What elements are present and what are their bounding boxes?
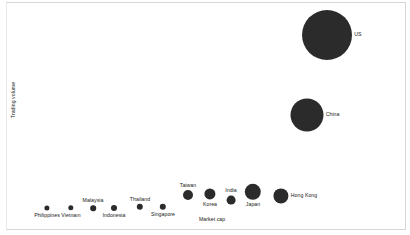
bubble-label-china: China xyxy=(326,112,340,117)
bubble-india[interactable] xyxy=(227,196,236,205)
bubble-us[interactable] xyxy=(302,10,352,60)
plot-area: PhilippinesVietnamMalaysiaIndonesiaThail… xyxy=(0,0,410,235)
bubble-indonesia[interactable] xyxy=(111,205,117,211)
bubble-label-malaysia: Malaysia xyxy=(83,198,104,203)
bubble-singapore[interactable] xyxy=(160,204,166,210)
bubble-taiwan[interactable] xyxy=(183,190,193,200)
bubble-label-hong-kong: Hong Kong xyxy=(291,193,317,198)
bubble-malaysia[interactable] xyxy=(90,205,96,211)
bubble-label-vietnam: Vietnam xyxy=(61,213,80,218)
bubble-vietnam[interactable] xyxy=(68,205,73,210)
bubble-label-japan: Japan xyxy=(246,202,260,207)
bubble-chart: Trading volume Market cap PhilippinesVie… xyxy=(0,0,410,235)
bubble-label-thailand: Thailand xyxy=(130,196,150,201)
bubble-thailand[interactable] xyxy=(137,204,143,210)
bubble-china[interactable] xyxy=(291,99,324,132)
bubble-japan[interactable] xyxy=(245,184,261,200)
bubble-label-indonesia: Indonesia xyxy=(103,213,126,218)
bubble-label-philippines: Philippines xyxy=(34,213,60,218)
bubble-philippines[interactable] xyxy=(44,205,49,210)
bubble-label-us: US xyxy=(354,32,361,37)
bubble-label-taiwan: Taiwan xyxy=(180,183,196,188)
bubble-label-india: India xyxy=(225,188,237,193)
bubble-hong-kong[interactable] xyxy=(273,188,288,203)
bubble-korea[interactable] xyxy=(204,188,215,199)
clipped-caption xyxy=(6,231,176,235)
bubble-label-korea: Korea xyxy=(203,202,217,207)
bubble-label-singapore: Singapore xyxy=(151,212,175,217)
